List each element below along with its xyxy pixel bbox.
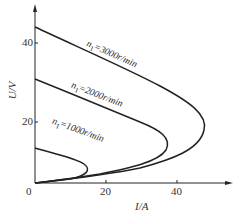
y-tick-label-40: 40 [22,37,33,48]
x-axis-arrow-icon [225,181,233,185]
x-tick-label-40: 40 [171,186,182,197]
y-tick-label-20: 20 [22,116,33,127]
y-axis-label: U/V [7,82,18,100]
x-tick-label-20: 20 [100,186,111,197]
y-axis-arrow-icon [33,4,37,12]
origin-label: 0 [26,186,32,197]
x-axis-label: I/A [135,201,148,212]
